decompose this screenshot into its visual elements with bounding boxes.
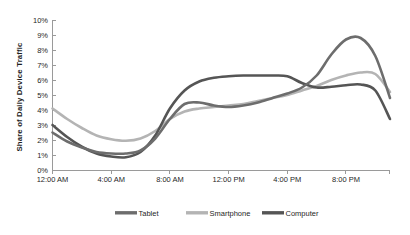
y-axis-tick-label: 10% [33,16,48,25]
series-line-computer [53,75,391,157]
x-axis-tick-label: 8:00 AM [156,175,184,184]
chart-legend: TabletSmartphoneComputer [115,209,319,218]
chart-container: Share of Daily Device Traffic 10%9%8%7%6… [0,0,410,235]
y-axis-tick-label: 1% [37,151,48,160]
line-chart: Share of Daily Device Traffic 10%9%8%7%6… [0,0,410,235]
data-series-group [53,37,391,158]
x-axis-tick-label: 12:00 AM [37,175,69,184]
x-axis-tick-labels: 12:00 AM4:00 AM8:00 AM12:00 PM4:00 PM8:0… [37,175,360,184]
y-axis-tick-label: 6% [37,76,48,85]
y-axis-tick-marks [53,21,57,171]
y-axis-title-label: Share of Daily Device Traffic [15,42,24,152]
x-axis-tick-label: 12:00 PM [213,175,245,184]
legend-label-computer: Computer [286,209,319,218]
y-axis-tick-label: 8% [37,46,48,55]
y-axis-tick-labels: 10%9%8%7%6%5%4%3%2%1%0% [33,16,48,175]
x-axis-tick-marks [53,171,390,175]
y-axis-tick-label: 9% [37,31,48,40]
series-line-tablet [53,37,391,154]
y-axis-tick-label: 0% [37,166,48,175]
x-axis-tick-label: 8:00 PM [332,175,360,184]
y-axis-title: Share of Daily Device Traffic [15,42,24,152]
legend-label-tablet: Tablet [139,209,160,218]
x-axis-tick-label: 4:00 AM [97,175,125,184]
y-axis-tick-label: 2% [37,136,48,145]
y-axis-tick-label: 4% [37,106,48,115]
y-axis-tick-label: 7% [37,61,48,70]
y-axis-tick-label: 5% [37,91,48,100]
y-axis-tick-label: 3% [37,121,48,130]
legend-label-smartphone: Smartphone [210,209,251,218]
x-axis-tick-label: 4:00 PM [273,175,301,184]
